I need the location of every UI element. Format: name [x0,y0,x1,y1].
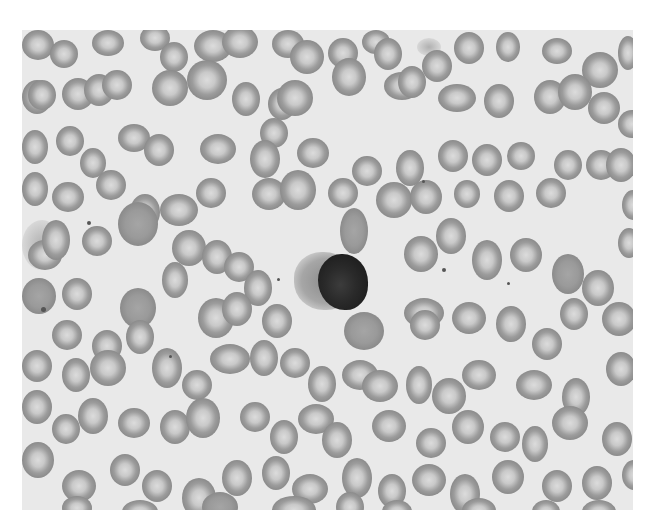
red-blood-cell [582,270,614,306]
red-blood-cell [262,304,292,338]
red-blood-cell [240,402,270,432]
red-blood-cell [484,84,514,118]
red-blood-cell [277,80,313,116]
red-blood-cell [516,370,552,400]
red-blood-cell [290,40,324,74]
red-blood-cell [250,340,278,376]
red-blood-cell [22,172,48,206]
red-blood-cell [622,460,633,490]
red-blood-cell [152,70,188,106]
platelet [422,180,425,183]
red-blood-cell [618,110,633,138]
red-blood-cell [472,144,502,176]
red-blood-cell [82,226,112,256]
red-blood-cell [187,60,227,100]
red-blood-cell [96,170,126,200]
red-blood-cell [438,140,468,172]
red-blood-cell [322,422,352,458]
red-blood-cell [510,238,542,272]
red-blood-cell [222,292,252,326]
red-blood-cell [232,82,260,116]
red-blood-cell [558,74,592,110]
red-blood-cell [374,38,402,70]
red-blood-cell [62,358,90,392]
red-blood-cell [160,194,198,226]
red-blood-cell [90,350,126,386]
red-blood-cell [22,130,48,164]
red-blood-cell [618,228,633,258]
red-blood-cell [110,454,140,486]
red-blood-cell [162,262,188,298]
red-blood-cell [362,370,398,402]
red-blood-cell [142,470,172,502]
red-blood-cell [160,42,188,72]
red-blood-cell [552,254,584,294]
red-blood-cell [118,408,150,438]
red-blood-cell [522,426,548,462]
red-blood-cell [582,466,612,500]
red-blood-cell [404,236,438,272]
red-blood-cell [270,420,298,454]
red-blood-cell [52,182,84,212]
red-blood-cell [52,320,82,350]
red-blood-cell [606,352,633,386]
red-blood-cell [507,142,535,170]
platelet [507,282,510,285]
red-blood-cell [410,310,440,340]
red-blood-cell [102,70,132,100]
red-blood-cell [52,414,80,444]
red-blood-cell [438,84,476,112]
red-blood-cell [144,134,174,166]
red-blood-cell [308,366,336,402]
red-blood-cell [472,240,502,280]
red-blood-cell [262,456,290,490]
micrograph-field [22,30,633,510]
red-blood-cell [22,442,54,478]
red-blood-cell [22,390,52,424]
red-blood-cell [602,302,633,336]
red-blood-cell [328,178,358,208]
red-blood-cell [222,460,252,496]
red-blood-cell [452,302,486,334]
red-blood-cell [210,344,250,374]
platelet [41,307,46,312]
platelet [169,355,172,358]
platelet [277,278,280,281]
red-blood-cell [542,38,572,64]
red-blood-cell [22,278,56,314]
red-blood-cell [186,398,220,438]
red-blood-cell [42,220,70,260]
red-blood-cell [410,180,442,214]
red-blood-cell [436,218,466,254]
red-blood-cell [496,32,520,62]
red-blood-cell [422,50,452,82]
red-blood-cell [250,140,280,178]
red-blood-cell [416,428,446,458]
red-blood-cell [412,464,446,496]
red-blood-cell [28,80,56,110]
red-blood-cell [542,470,572,502]
red-blood-cell [582,500,616,510]
red-blood-cell [152,348,182,388]
red-blood-cell [496,306,526,342]
red-blood-cell [606,148,633,182]
red-blood-cell [494,180,524,212]
red-blood-cell [490,422,520,452]
red-blood-cell [126,320,154,354]
red-blood-cell [532,328,562,360]
red-blood-cell [454,180,480,208]
red-blood-cell [560,298,588,330]
red-blood-cell [332,58,366,96]
red-blood-cell [196,178,226,208]
platelet [442,268,446,272]
red-blood-cell [376,182,412,218]
red-blood-cell [340,208,368,254]
red-blood-cell [602,422,632,456]
red-blood-cell [552,406,588,440]
red-blood-cell [182,370,212,400]
red-blood-cell [200,134,236,164]
red-blood-cell [56,126,84,156]
red-blood-cell [432,378,466,414]
platelet [87,221,91,225]
red-blood-cell [618,36,633,70]
